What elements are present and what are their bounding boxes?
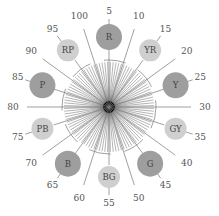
tick-label-30: 30 xyxy=(199,102,211,112)
tick-label-75: 75 xyxy=(12,132,24,142)
tick-label-70: 70 xyxy=(26,158,38,168)
hue-circle-bg: BG xyxy=(98,166,120,188)
hue-label: PB xyxy=(36,124,48,134)
hue-circle-gy: GY xyxy=(165,118,187,140)
hue-label: P xyxy=(40,80,46,90)
hue-circle-b: B xyxy=(55,151,81,177)
hue-circle-y: Y xyxy=(163,72,189,98)
tick-label-25: 25 xyxy=(195,72,207,82)
tick-label-60: 60 xyxy=(74,193,86,203)
hue-circle-p: P xyxy=(29,72,55,98)
tick-label-50: 50 xyxy=(133,193,145,203)
leader-line-35 xyxy=(185,132,193,134)
hue-label: GY xyxy=(169,124,182,134)
tick-label-15: 15 xyxy=(160,24,172,34)
munsell-hue-wheel: RYRYGYGBGBPBPRP 510152025303540455055606… xyxy=(0,0,219,216)
tick-label-80: 80 xyxy=(7,102,19,112)
leader-line-75 xyxy=(25,132,33,134)
tick-label-95: 95 xyxy=(47,24,59,34)
hue-label: RP xyxy=(62,45,74,55)
tick-label-20: 20 xyxy=(181,46,193,56)
tick-label-90: 90 xyxy=(26,46,38,56)
hue-label: B xyxy=(65,159,71,169)
tick-label-85: 85 xyxy=(12,72,24,82)
leader-line-15 xyxy=(156,36,161,42)
hue-circle-r: R xyxy=(96,24,122,50)
hue-label: R xyxy=(106,32,113,42)
hue-circle-pb: PB xyxy=(31,118,53,140)
hue-circle-yr: YR xyxy=(139,39,161,61)
tick-label-100: 100 xyxy=(71,11,88,21)
hue-label: BG xyxy=(102,172,115,182)
tick-label-55: 55 xyxy=(103,198,115,208)
hue-label: Y xyxy=(172,80,179,90)
tick-label-35: 35 xyxy=(195,132,207,142)
hue-circle-rp: RP xyxy=(57,39,79,61)
hue-label: G xyxy=(147,159,154,169)
tick-label-5: 5 xyxy=(106,6,112,16)
tick-label-65: 65 xyxy=(47,180,59,190)
tick-label-45: 45 xyxy=(160,180,172,190)
hue-label: YR xyxy=(143,45,157,55)
tick-label-10: 10 xyxy=(133,11,145,21)
tick-label-40: 40 xyxy=(181,158,193,168)
hue-circle-g: G xyxy=(137,151,163,177)
leader-line-95 xyxy=(57,36,62,42)
